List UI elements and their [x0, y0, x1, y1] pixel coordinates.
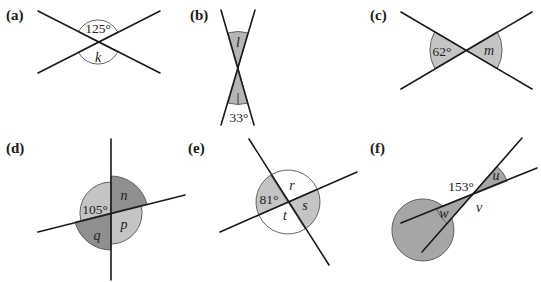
panel-f: (f) 153° u v w: [370, 138, 537, 261]
panel-label-a: (a): [6, 7, 24, 24]
panel-b: (b) l 33°: [190, 7, 255, 125]
panel-label-f: (f): [370, 140, 385, 157]
angle-diagrams: (a) 125° k (b) l 33° (c) 62° m (d): [0, 0, 541, 282]
angle-label-m: m: [484, 43, 494, 58]
line-2: [401, 168, 537, 223]
panel-e: (e) 81° r s t: [188, 139, 357, 265]
angle-label-q: q: [94, 228, 101, 243]
angle-label-u: u: [493, 168, 500, 183]
panel-d: (d) 105° n p q: [6, 139, 185, 280]
angle-label-w: w: [439, 206, 449, 221]
angle-label-s: s: [302, 198, 308, 213]
angle-label-153: 153°: [448, 179, 474, 194]
angle-label-n: n: [121, 188, 128, 203]
angle-label-k: k: [95, 50, 102, 65]
angle-label-105: 105°: [82, 202, 108, 217]
angle-label-62: 62°: [433, 44, 452, 59]
angle-label-v: v: [476, 200, 483, 215]
panel-a: (a) 125° k: [6, 7, 160, 73]
angle-label-125: 125°: [85, 21, 111, 36]
angle-wedge-u: [472, 166, 507, 195]
panel-c: (c) 62° m: [370, 7, 532, 89]
angle-label-81: 81°: [260, 192, 279, 207]
angle-label-l: l: [236, 35, 240, 50]
angle-label-r: r: [289, 178, 295, 193]
angle-label-p: p: [120, 217, 128, 232]
panel-label-b: (b): [190, 7, 208, 24]
panel-label-c: (c): [370, 7, 387, 24]
angle-label-33: 33°: [230, 110, 249, 125]
panel-label-e: (e): [188, 140, 205, 157]
panel-label-d: (d): [6, 140, 24, 157]
